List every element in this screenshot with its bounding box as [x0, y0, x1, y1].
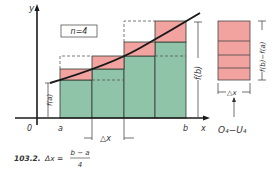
caption-formula-numerator: b − a: [70, 149, 89, 157]
caption-formula-denominator: 4: [78, 161, 82, 169]
origin-label: 0: [27, 124, 32, 133]
stack-caption: O₄−U₄: [218, 125, 247, 135]
fa-label: f(a): [46, 94, 54, 106]
a-label: a: [58, 124, 63, 133]
lower-bar-2: [92, 69, 124, 118]
n-label: n=4: [71, 27, 88, 36]
x-axis-label: x: [200, 124, 206, 133]
x-axis-arrow-icon: [203, 116, 210, 121]
difference-stack: [218, 21, 250, 80]
stack-dx-label: △x: [227, 89, 237, 97]
diff-label: f(b)−f(a): [259, 41, 267, 72]
pointer-arrow-icon: [232, 97, 236, 102]
lower-bar-4: [155, 42, 186, 118]
y-axis-arrow-icon: [35, 4, 40, 11]
caption-formula-lhs: Δx =: [44, 154, 63, 163]
lower-bar-1: [60, 80, 92, 118]
y-axis-label: y: [28, 3, 35, 13]
b-label: b: [183, 124, 188, 133]
riemann-sum-diagram: n=4 y x 0 a b f(a) f(b) △x f(b)−f(a): [0, 0, 279, 170]
dx-label: △x: [100, 134, 111, 143]
fb-label: f(b): [194, 66, 203, 80]
lower-bar-3: [124, 56, 155, 118]
caption-number: 103.2.: [14, 154, 41, 163]
